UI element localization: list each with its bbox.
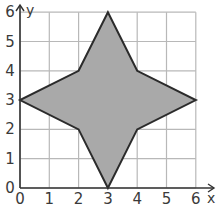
y-tick-label: 1: [5, 150, 15, 168]
x-tick-label: 6: [191, 190, 201, 206]
y-tick-labels: 0123456: [5, 3, 15, 197]
x-tick-label: 1: [45, 190, 55, 206]
x-tick-label: 0: [15, 190, 25, 206]
y-tick-label: 0: [5, 179, 15, 197]
y-tick-label: 4: [5, 62, 15, 80]
y-tick-label: 5: [5, 33, 15, 51]
y-tick-label: 3: [5, 91, 15, 109]
y-axis-label: y: [26, 2, 34, 18]
y-tick-label: 6: [5, 3, 15, 21]
x-tick-label: 5: [162, 190, 172, 206]
x-tick-label: 2: [74, 190, 84, 206]
coordinate-grid-diagram: 0123456 0123456 x y: [0, 0, 224, 206]
x-tick-label: 3: [103, 190, 113, 206]
y-tick-label: 2: [5, 120, 15, 138]
x-tick-labels: 0123456: [15, 190, 200, 206]
x-tick-label: 4: [132, 190, 142, 206]
star-shaped-polygon: [20, 12, 196, 188]
x-axis-label: x: [207, 190, 215, 206]
